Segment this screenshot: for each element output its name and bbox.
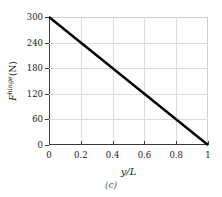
x-tick-label: 0.6 bbox=[138, 150, 152, 160]
x-tick-label: 0 bbox=[46, 150, 51, 160]
data-line-f-hinge bbox=[49, 17, 208, 145]
y-axis-label-superscript: hinge bbox=[6, 76, 14, 94]
figure-caption: (c) bbox=[0, 180, 222, 190]
y-axis-label-unit: (N) bbox=[8, 61, 18, 76]
y-axis-label: Fhinge(N) bbox=[6, 17, 20, 145]
tick-y bbox=[45, 145, 49, 146]
x-tick-label: 1 bbox=[205, 150, 210, 160]
x-tick-label: 0.2 bbox=[74, 150, 88, 160]
x-tick-label: 0.8 bbox=[169, 150, 183, 160]
figure-panel: 00.20.40.60.81 060120180240300 y/L Fhing… bbox=[0, 0, 222, 197]
x-tick-label: 0.4 bbox=[106, 150, 120, 160]
plot-area bbox=[49, 17, 208, 145]
y-axis-label-symbol: F bbox=[8, 95, 18, 101]
x-axis-label: y/L bbox=[49, 166, 208, 177]
data-series-layer bbox=[49, 17, 208, 145]
